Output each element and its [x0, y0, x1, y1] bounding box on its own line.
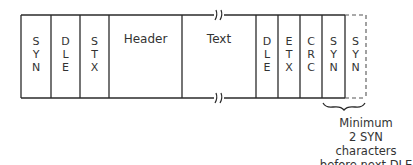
char: E	[286, 35, 293, 48]
char: D	[61, 35, 69, 48]
char: Y	[352, 48, 359, 61]
annotation-line-2: 2 SYN characters	[318, 130, 413, 158]
char: D	[263, 35, 271, 48]
header-label: Header	[124, 33, 168, 46]
char: N	[351, 61, 359, 74]
annotation-line-3: before next DLE	[318, 158, 413, 165]
char: R	[307, 48, 315, 61]
field-syn-2: S Y N	[322, 15, 345, 98]
field-etx: E T X	[278, 15, 300, 98]
char: T	[91, 48, 98, 61]
char: S	[330, 35, 337, 48]
char: X	[91, 61, 99, 74]
field-syn-1: S Y N	[21, 15, 51, 98]
field-dle-2: D L E	[256, 15, 278, 98]
char: C	[307, 61, 315, 74]
char: S	[352, 35, 359, 48]
char: L	[264, 48, 270, 61]
char: T	[286, 48, 293, 61]
syn-annotation: Minimum 2 SYN characters before next DLE	[318, 116, 413, 165]
char: E	[62, 61, 69, 74]
text-label: Text	[207, 33, 231, 46]
char: N	[329, 61, 337, 74]
annotation-line-1: Minimum	[318, 116, 413, 130]
field-stx: S T X	[80, 15, 109, 98]
field-dle-1: D L E	[51, 15, 80, 98]
char: Y	[33, 48, 40, 61]
bisync-frame-diagram: S Y N D L E S T X Header Text D L E E T …	[0, 0, 413, 165]
brace-icon	[323, 103, 365, 110]
char: S	[91, 35, 98, 48]
field-syn-3-optional: S Y N	[345, 15, 366, 98]
field-text: Text	[182, 15, 256, 98]
char: L	[62, 48, 68, 61]
field-header: Header	[109, 15, 182, 98]
field-crc: C R C	[300, 15, 322, 98]
char: E	[264, 61, 271, 74]
char: Y	[330, 48, 337, 61]
char: C	[307, 35, 315, 48]
char: X	[285, 61, 293, 74]
char: S	[33, 35, 40, 48]
char: N	[32, 61, 40, 74]
